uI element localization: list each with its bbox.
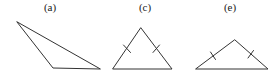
triangles-figure: (a) (c) (e) — [0, 0, 275, 77]
panel-label-a: (a) — [28, 1, 72, 14]
triangle-a-outline — [17, 22, 100, 69]
triangle-e-group — [196, 40, 268, 69]
triangle-e-outline — [196, 40, 268, 69]
triangle-a-group — [17, 22, 100, 69]
triangle-c-group — [113, 28, 172, 69]
panel-label-c: (c) — [123, 1, 167, 14]
tick-mark-icon-e-left — [211, 52, 216, 60]
triangle-c-outline — [113, 28, 172, 69]
panel-label-e: (e) — [208, 1, 252, 14]
